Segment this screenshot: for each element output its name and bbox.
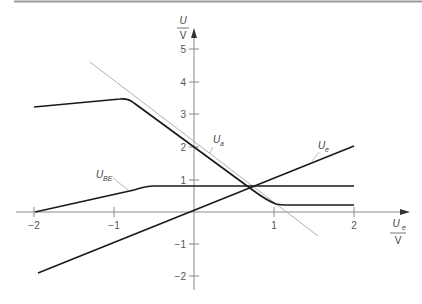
- ube-label: U BE: [96, 169, 128, 190]
- x-tick-label: −2: [28, 220, 40, 231]
- ua-extrapolation-line: [90, 62, 318, 236]
- transfer-characteristic-chart: −2 −1 1 2 5 4 3 2 1 −1 −2 U V: [0, 0, 422, 304]
- y-axis-label: U V: [177, 15, 189, 41]
- y-ticks: 5 4 3 2 1 −1 −2: [175, 44, 199, 282]
- y-tick-label: 5: [180, 44, 186, 55]
- x-axis-subscript: e: [402, 224, 406, 231]
- ua-label: U a: [210, 134, 224, 153]
- y-tick-label: −1: [175, 239, 187, 250]
- y-tick-label: 4: [180, 77, 186, 88]
- y-tick-label: 1: [180, 175, 186, 186]
- x-tick-label: 2: [351, 220, 357, 231]
- x-tick-label: −1: [108, 220, 120, 231]
- y-axis-arrow-icon: [191, 28, 197, 38]
- svg-text:BE: BE: [103, 175, 113, 182]
- x-axis-symbol: U: [392, 218, 400, 229]
- y-axis-symbol: U: [179, 15, 187, 26]
- y-axis-unit: V: [180, 30, 187, 41]
- axes: −2 −1 1 2 5 4 3 2 1 −1 −2 U V: [16, 15, 410, 290]
- y-tick-label: 3: [180, 109, 186, 120]
- ue-curve: [38, 146, 354, 273]
- x-axis-arrow-icon: [400, 209, 410, 215]
- x-axis-label: U e V: [390, 218, 406, 246]
- x-tick-label: 1: [271, 220, 277, 231]
- svg-text:e: e: [325, 146, 329, 153]
- y-tick-label: 2: [180, 142, 186, 153]
- y-tick-label: −2: [175, 271, 187, 282]
- x-axis-unit: V: [395, 235, 402, 246]
- svg-text:a: a: [220, 140, 224, 147]
